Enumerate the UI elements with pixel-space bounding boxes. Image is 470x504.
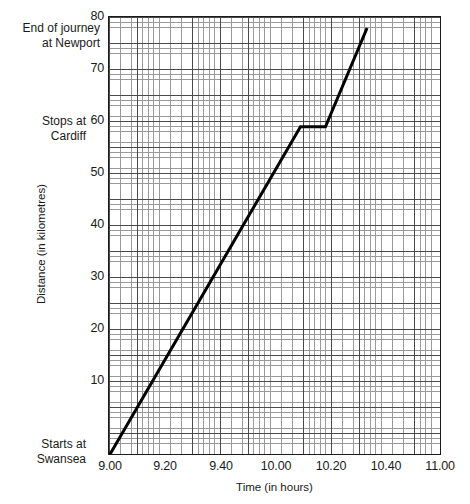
x-tick-9-00: 9.00 xyxy=(80,459,140,473)
x-tick-9-20: 9.20 xyxy=(135,459,195,473)
x-tick-9-40: 9.40 xyxy=(191,459,251,473)
annotation-stops-at-cardiff: Stops at Cardiff xyxy=(14,114,86,143)
x-tick-10-00: 10.00 xyxy=(246,459,306,473)
annotation-starts-at-swansea: Starts at Swansea xyxy=(14,437,86,466)
journey-line xyxy=(109,17,441,455)
y-axis-title: Distance (in kilometres) xyxy=(35,159,47,329)
travel-graph: 80 70 60 50 40 30 20 10 Distance (in kil… xyxy=(0,0,470,504)
x-axis-title: Time (in hours) xyxy=(108,481,441,493)
y-tick-10: 10 xyxy=(78,374,104,386)
annotation-end-of-journey-newport: End of journey at Newport xyxy=(4,21,100,50)
x-tick-10-20: 10.20 xyxy=(301,459,361,473)
y-tick-70: 70 xyxy=(78,62,104,74)
plot-area xyxy=(108,16,441,455)
y-tick-40: 40 xyxy=(78,218,104,230)
x-tick-11-00: 11.00 xyxy=(410,459,470,473)
y-tick-50: 50 xyxy=(78,166,104,178)
y-tick-20: 20 xyxy=(78,322,104,334)
y-axis-tick-labels: 80 70 60 50 40 30 20 10 xyxy=(74,0,104,504)
x-tick-10-40: 10.40 xyxy=(356,459,416,473)
y-tick-30: 30 xyxy=(78,270,104,282)
